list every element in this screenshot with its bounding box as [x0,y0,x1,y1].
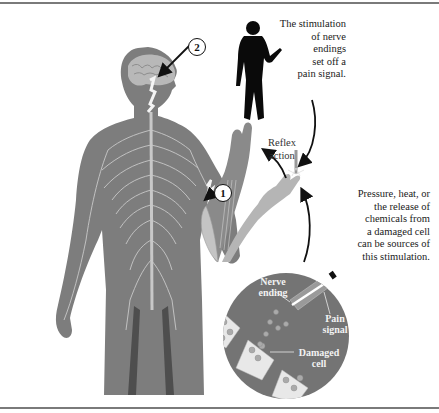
stimulation-caption: The stimulation of nerve endings set off… [272,18,346,81]
damaged-cell-label: Damaged cell [294,347,344,369]
step-1-marker: 1 [214,184,232,202]
arrow-sources-to-stimulus [302,190,310,262]
step-2-marker: 2 [188,38,206,56]
pain-signal-label: Pain signal [318,313,352,335]
arrow-signal-to-stimulus [300,100,315,165]
nerve-ending-label: Nerve ending [253,276,293,298]
reflex-action-caption: Reflex action [262,137,302,162]
stimulation-sources-caption: Pressure, heat, or the release of chemic… [318,188,430,263]
